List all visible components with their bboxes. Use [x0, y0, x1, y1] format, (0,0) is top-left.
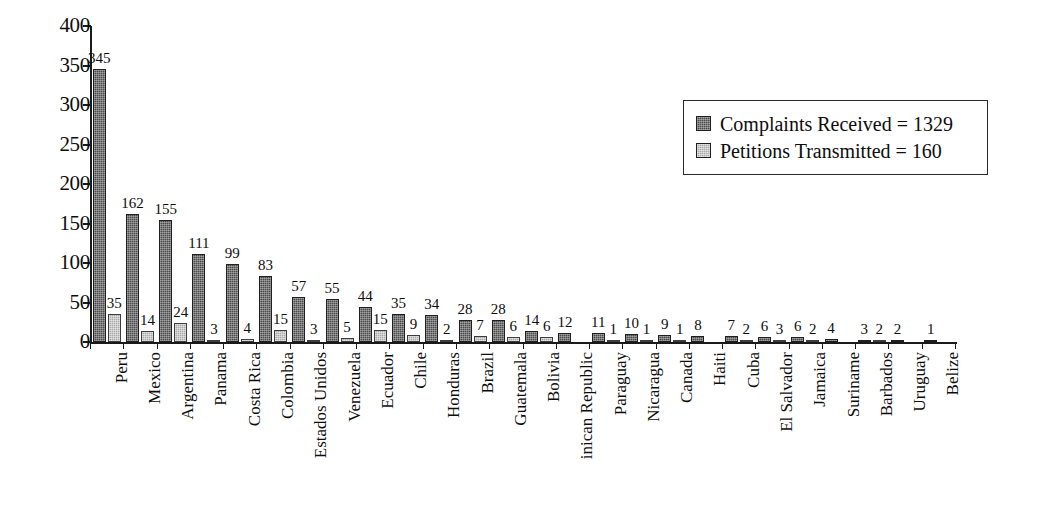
plot-area: 3453516214155241113994831557355544153593… [90, 26, 955, 342]
bar-value-label: 83 [250, 258, 281, 273]
x-axis-tick [223, 342, 224, 349]
y-axis-tick-label: 250 [44, 134, 90, 155]
x-axis-tick [822, 342, 823, 349]
y-axis-tick-label: 300 [44, 94, 90, 115]
legend-label-complaints: Complaints Received = 1329 [720, 114, 953, 134]
bar-group: 91 [656, 26, 689, 342]
x-axis-tick [888, 342, 889, 349]
x-axis-tick [789, 342, 790, 349]
bar-value-label: 12 [549, 315, 580, 330]
bar-group: 4 [822, 26, 855, 342]
x-axis-label: inican Republic [578, 352, 595, 459]
x-axis-label-text: Haiti [711, 352, 728, 386]
x-axis-tick [356, 342, 357, 349]
bar-complaints [259, 276, 272, 342]
x-axis-label: Brazil [479, 352, 496, 394]
bar-group: 2 [888, 26, 921, 342]
bar-complaints [891, 340, 904, 342]
y-axis-tick-label: 100 [44, 252, 90, 273]
x-axis-label: Peru [113, 352, 130, 383]
bar-complaints [558, 333, 571, 342]
bar-complaints [758, 337, 771, 342]
x-axis-label-text: Ecuador [379, 352, 396, 409]
bar-petitions [174, 323, 187, 342]
x-axis-label: Costa Rica [246, 352, 263, 426]
bar-petitions [374, 330, 387, 342]
bar-value-label: 44 [350, 289, 381, 304]
x-axis-label-text: Mexico [146, 352, 163, 404]
x-axis-label: Argentina [179, 352, 196, 420]
bar-complaints [924, 340, 937, 342]
y-axis-tick-label: 0 [44, 331, 90, 352]
x-axis-label: Chile [412, 352, 429, 389]
x-axis-tick [456, 342, 457, 349]
bar-group: 146 [523, 26, 556, 342]
bar-group: 32 [855, 26, 888, 342]
bar-group: 15524 [157, 26, 190, 342]
legend-item-complaints-received: Complaints Received = 1329 [696, 110, 975, 137]
x-axis-label: Jamaica [811, 352, 828, 407]
x-axis-label-text: Honduras [445, 352, 462, 418]
bar-value-label: 4 [816, 321, 847, 336]
x-axis-label: Panama [212, 352, 229, 406]
x-axis-label: El Salvador [778, 352, 795, 432]
x-axis-label-text: El Salvador [778, 352, 795, 432]
x-axis-tick [855, 342, 856, 349]
bar-petitions [108, 314, 121, 342]
bar-value-label: 99 [217, 246, 248, 261]
x-axis-label-text: Jamaica [811, 352, 828, 407]
x-axis-label: Guatemala [512, 352, 529, 426]
x-axis-label-text: Bolivia [545, 352, 562, 402]
bar-complaints [691, 336, 704, 342]
x-axis-label: Estados Unidos [312, 352, 329, 458]
chart-legend: Complaints Received = 1329 Petitions Tra… [683, 100, 988, 175]
bar-group: 72 [722, 26, 755, 342]
bar-group: 8315 [256, 26, 289, 342]
x-axis-label-text: Argentina [179, 352, 196, 420]
x-axis-label: Suriname [845, 352, 862, 417]
x-axis-label-text: Guatemala [512, 352, 529, 426]
bar-petitions [873, 340, 886, 342]
x-axis-label-text: Paraguay [612, 352, 629, 415]
bar-petitions [540, 337, 553, 342]
x-axis-tick [290, 342, 291, 349]
bar-value-label: 28 [483, 302, 514, 317]
bar-value-label: 57 [283, 279, 314, 294]
x-axis-label: Cuba [745, 352, 762, 388]
x-axis-tick [523, 342, 524, 349]
bar-group: 62 [789, 26, 822, 342]
bar-group: 994 [223, 26, 256, 342]
bar-group: 12 [556, 26, 589, 342]
bar-complaints [858, 340, 871, 342]
bar-group: 111 [589, 26, 622, 342]
x-axis-label-text: Colombia [279, 352, 296, 419]
bar-group: 1113 [190, 26, 223, 342]
x-axis-tick [556, 342, 557, 349]
x-axis-label-text: Cuba [745, 352, 762, 388]
bar-petitions [341, 338, 354, 342]
x-axis-label-text: Uruguay [911, 352, 928, 411]
x-axis-label: Venezuela [346, 352, 363, 422]
x-axis-label-text: Barbados [878, 352, 895, 416]
bar-petitions [740, 340, 753, 342]
bar-chart: 050100150200250300350400 345351621415524… [0, 0, 1040, 525]
x-axis-label: Uruguay [911, 352, 928, 411]
bar-value-label: 2 [882, 322, 913, 337]
x-axis-label: Honduras [445, 352, 462, 418]
bar-petitions [773, 340, 786, 342]
x-axis-tick [190, 342, 191, 349]
y-axis-tick-label: 150 [44, 213, 90, 234]
x-axis-label-text: Peru [113, 352, 130, 383]
x-axis-label: Belize [944, 352, 961, 395]
bar-group: 8 [689, 26, 722, 342]
x-axis-tick [589, 342, 590, 349]
bar-petitions [440, 340, 453, 342]
x-axis-tick [423, 342, 424, 349]
x-axis-line [90, 342, 957, 344]
x-axis-tick [157, 342, 158, 349]
x-axis-tick [722, 342, 723, 349]
bar-group: 342 [423, 26, 456, 342]
bar-value-label: 1 [915, 322, 946, 337]
bar-petitions [640, 340, 653, 342]
bar-petitions [673, 340, 686, 342]
